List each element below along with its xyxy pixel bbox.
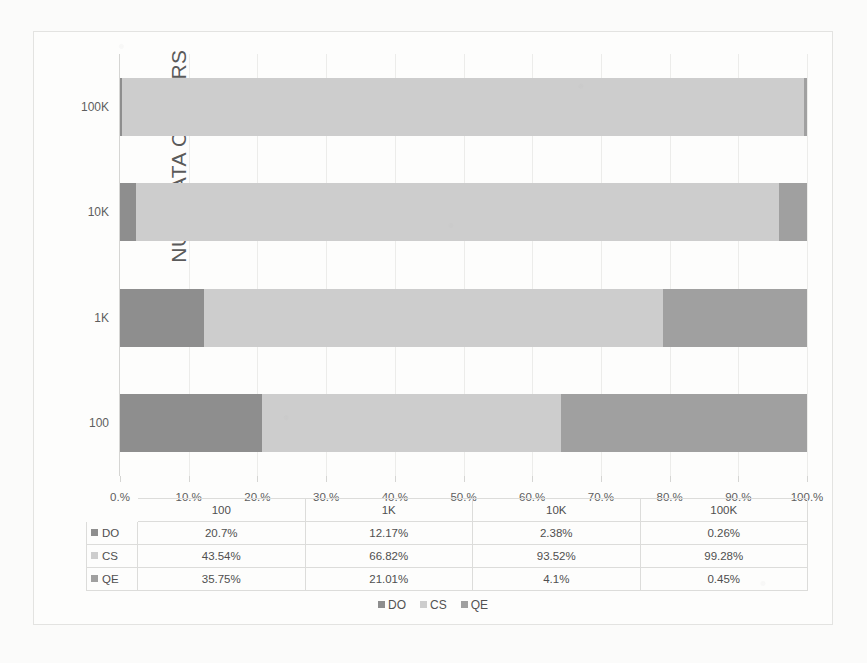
x-axis-tick bbox=[395, 476, 396, 482]
table-row: QE35.75%21.01%4.1%0.45% bbox=[87, 568, 808, 591]
table-column-header: 100 bbox=[138, 499, 306, 522]
bar-segment-do bbox=[120, 289, 204, 347]
table-cell: 12.17% bbox=[305, 522, 473, 545]
legend-item-qe[interactable]: QE bbox=[461, 598, 488, 612]
table-cell: 35.75% bbox=[138, 568, 306, 591]
plot-area: 0.%10.%20.%30.%40.%50.%60.%70.%80.%90.%1… bbox=[119, 54, 807, 476]
table-column-header: 10K bbox=[473, 499, 641, 522]
y-axis-category-label: 10K bbox=[88, 205, 109, 219]
table-row-header: CS bbox=[87, 545, 138, 568]
table-row-header: QE bbox=[87, 568, 138, 591]
bar-segment-do bbox=[120, 394, 262, 452]
table-row-header: DO bbox=[87, 522, 138, 545]
x-axis-tick bbox=[464, 476, 465, 482]
bar-segment-qe bbox=[663, 289, 807, 347]
legend-swatch-icon bbox=[91, 552, 98, 559]
table-header-row: 1001K10K100K bbox=[87, 499, 808, 522]
table-cell: 93.52% bbox=[473, 545, 641, 568]
bar-segment-cs bbox=[122, 78, 804, 136]
x-axis-tick bbox=[189, 476, 190, 482]
table-cell: 43.54% bbox=[138, 545, 306, 568]
table-cell: 21.01% bbox=[305, 568, 473, 591]
legend-swatch-icon bbox=[378, 601, 385, 608]
table-cell: 4.1% bbox=[473, 568, 641, 591]
data-table: 1001K10K100KDO20.7%12.17%2.38%0.26%CS43.… bbox=[86, 498, 808, 591]
table-row: CS43.54%66.82%93.52%99.28% bbox=[87, 545, 808, 568]
x-axis-tick bbox=[670, 476, 671, 482]
bar-row bbox=[120, 183, 807, 241]
bar-row bbox=[120, 394, 807, 452]
x-axis-tick bbox=[532, 476, 533, 482]
table-column-header: 100K bbox=[640, 499, 808, 522]
legend-swatch-icon bbox=[420, 601, 427, 608]
bar-segment-qe bbox=[779, 183, 807, 241]
table-cell: 20.7% bbox=[138, 522, 306, 545]
data-table-body: 1001K10K100KDO20.7%12.17%2.38%0.26%CS43.… bbox=[87, 499, 808, 591]
legend-swatch-icon bbox=[461, 601, 468, 608]
table-cell: 0.26% bbox=[640, 522, 808, 545]
legend-label: QE bbox=[471, 598, 488, 612]
chart-container: NUM DATA OWNERS 100K10K1K100 0.%10.%20.%… bbox=[33, 31, 833, 625]
legend-item-cs[interactable]: CS bbox=[420, 598, 447, 612]
table-row-label: DO bbox=[102, 527, 119, 539]
y-axis-category-label: 1K bbox=[94, 311, 109, 325]
table-cell: 66.82% bbox=[305, 545, 473, 568]
bar-segment-cs bbox=[136, 183, 778, 241]
legend-swatch-icon bbox=[91, 529, 98, 536]
y-axis-category-label: 100K bbox=[81, 100, 109, 114]
x-axis-tick bbox=[257, 476, 258, 482]
x-axis-tick bbox=[326, 476, 327, 482]
table-row-label: QE bbox=[102, 573, 119, 585]
plot-wrapper: NUM DATA OWNERS 100K10K1K100 0.%10.%20.%… bbox=[119, 54, 807, 476]
x-axis-tick bbox=[120, 476, 121, 482]
table-column-header: 1K bbox=[305, 499, 473, 522]
table-cell: 99.28% bbox=[640, 545, 808, 568]
bar-row bbox=[120, 289, 807, 347]
x-axis-tick bbox=[601, 476, 602, 482]
table-row-label: CS bbox=[102, 550, 118, 562]
y-axis-category-label: 100 bbox=[89, 416, 109, 430]
bar-row bbox=[120, 78, 807, 136]
gridline bbox=[807, 54, 808, 476]
bar-segment-do bbox=[120, 183, 136, 241]
x-axis-tick bbox=[738, 476, 739, 482]
y-axis-category-labels: 100K10K1K100 bbox=[61, 54, 109, 476]
bar-segment-cs bbox=[204, 289, 663, 347]
chart-legend: DOCSQE bbox=[34, 598, 832, 612]
table-cell: 0.45% bbox=[640, 568, 808, 591]
bar-segment-qe bbox=[804, 78, 807, 136]
table-row: DO20.7%12.17%2.38%0.26% bbox=[87, 522, 808, 545]
x-axis-tick bbox=[807, 476, 808, 482]
legend-label: CS bbox=[430, 598, 447, 612]
bar-segment-qe bbox=[561, 394, 807, 452]
legend-item-do[interactable]: DO bbox=[378, 598, 406, 612]
legend-label: DO bbox=[388, 598, 406, 612]
table-cell: 2.38% bbox=[473, 522, 641, 545]
legend-swatch-icon bbox=[91, 575, 98, 582]
bar-segment-cs bbox=[262, 394, 561, 452]
table-corner-cell bbox=[87, 499, 138, 522]
